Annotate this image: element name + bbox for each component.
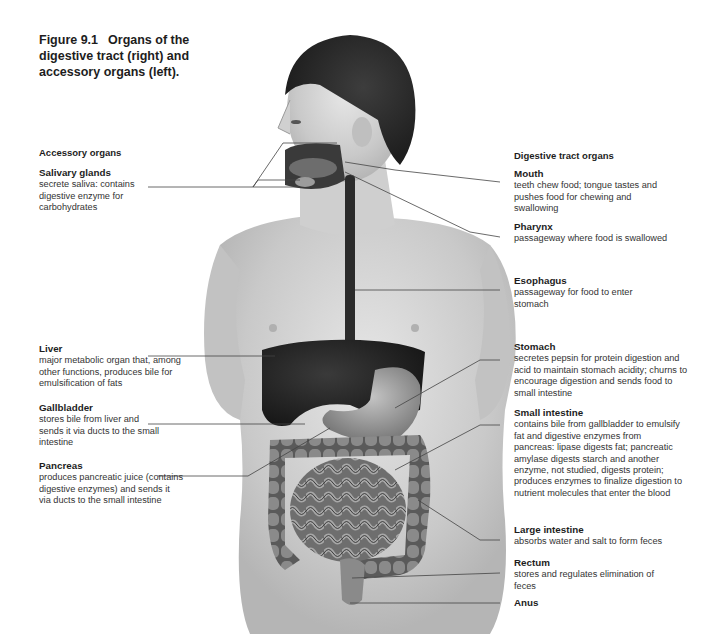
- label-description: teeth chew food; tongue tastes and pushe…: [514, 180, 664, 214]
- label-name: Small intestine: [514, 407, 684, 418]
- accessory-organs-heading: Accessory organs: [39, 147, 121, 158]
- label-name: Stomach: [514, 341, 689, 352]
- label-name: Pharynx: [514, 221, 714, 232]
- label-name: Mouth: [514, 168, 664, 179]
- label-large-intestine: Large intestine absorbs water and salt t…: [514, 524, 714, 548]
- rectum-shape: [340, 558, 365, 605]
- label-description: secretes pepsin for protein digestion an…: [514, 353, 689, 399]
- label-mouth: Mouth teeth chew food; tongue tastes and…: [514, 168, 664, 215]
- label-esophagus: Esophagus passageway for food to enter s…: [514, 275, 634, 310]
- label-name: Pancreas: [39, 460, 184, 471]
- label-name: Esophagus: [514, 275, 634, 286]
- label-description: passageway for food to enter stomach: [514, 287, 634, 310]
- label-description: secrete saliva: contains digestive enzym…: [39, 179, 159, 213]
- label-gallbladder: Gallbladder stores bile from liver and s…: [39, 402, 159, 449]
- label-description: absorbs water and salt to form feces: [514, 536, 714, 547]
- label-name: Salivary glands: [39, 167, 159, 178]
- label-name: Anus: [514, 597, 634, 608]
- label-name: Rectum: [514, 557, 674, 568]
- label-description: produces pancreatic juice (contains dige…: [39, 472, 184, 506]
- head: [278, 35, 415, 189]
- digestive-tract-organs-heading: Digestive tract organs: [514, 150, 614, 161]
- label-small-intestine: Small intestine contains bile from gallb…: [514, 407, 684, 499]
- label-description: stores and regulates elimination of fece…: [514, 569, 674, 592]
- label-pancreas: Pancreas produces pancreatic juice (cont…: [39, 460, 184, 507]
- label-salivary-glands: Salivary glands secrete saliva: contains…: [39, 167, 159, 214]
- small-intestine-shape: [290, 458, 406, 562]
- label-name: Gallbladder: [39, 402, 159, 413]
- label-description: major metabolic organ that, among other …: [39, 355, 189, 389]
- label-description: stores bile from liver and sends it via …: [39, 414, 159, 448]
- label-description: contains bile from gallbladder to emulsi…: [514, 419, 684, 499]
- label-stomach: Stomach secretes pepsin for protein dige…: [514, 341, 689, 399]
- label-pharynx: Pharynx passageway where food is swallow…: [514, 221, 714, 245]
- esophagus-shape: [345, 175, 355, 355]
- label-liver: Liver major metabolic organ that, among …: [39, 343, 189, 390]
- label-description: passageway where food is swallowed: [514, 233, 714, 244]
- label-name: Large intestine: [514, 524, 714, 535]
- label-name: Liver: [39, 343, 189, 354]
- label-rectum: Rectum stores and regulates elimination …: [514, 557, 674, 592]
- label-anus: Anus: [514, 597, 634, 609]
